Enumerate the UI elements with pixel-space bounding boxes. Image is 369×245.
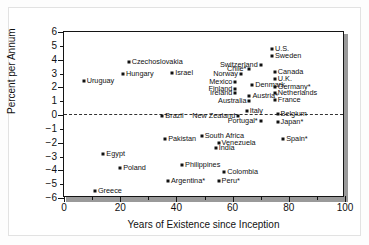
y-tick-label: −2: [46, 138, 57, 148]
data-point-marker: [122, 73, 125, 76]
x-tick-label: 0: [61, 203, 67, 213]
data-point-label: Uruguay: [87, 77, 115, 84]
data-point-marker: [245, 109, 248, 112]
data-point-label: Sweden: [275, 53, 301, 60]
data-point-label: Ireland: [210, 89, 232, 96]
data-point-marker: [248, 100, 251, 103]
x-tick-label: 100: [337, 203, 354, 213]
x-axis-title: Years of Existence since Inception: [63, 219, 344, 230]
data-point-label: Australia: [218, 98, 246, 105]
data-point-marker: [119, 166, 122, 169]
x-tick: [205, 196, 206, 200]
y-tick-label: 1: [51, 96, 57, 106]
data-point-marker: [270, 48, 273, 51]
data-point-label: Greece: [98, 187, 122, 194]
data-point-marker: [276, 113, 279, 116]
data-point-marker: [270, 55, 273, 58]
data-point-label: India: [219, 145, 235, 152]
data-point-label: Hungary: [126, 71, 154, 78]
x-tick-label: 80: [283, 203, 294, 213]
data-point-label: Israel: [175, 69, 193, 76]
y-tick: [60, 157, 64, 158]
y-tick: [60, 129, 64, 130]
data-point-label: Italy: [250, 107, 263, 114]
y-tick-label: 0: [51, 110, 57, 120]
y-tick: [60, 74, 64, 75]
scatter-chart-figure: Percent per Annum 6543210−1−2−3−4−5−6 02…: [0, 0, 369, 245]
y-tick-label: 5: [51, 41, 57, 51]
data-point-marker: [166, 179, 169, 182]
plot-area: 6543210−1−2−3−4−5−6 020406080100 Uruguay…: [63, 31, 344, 197]
x-tick: [92, 196, 93, 200]
data-point-label: Spain*: [286, 136, 308, 143]
data-point-label: New Zealand: [192, 112, 235, 119]
y-tick: [58, 60, 64, 61]
data-point-label: Japan*: [281, 118, 304, 125]
y-tick-label: 3: [51, 69, 57, 79]
data-point-marker: [223, 171, 226, 174]
data-point-marker: [82, 80, 85, 83]
data-point-marker: [127, 60, 130, 63]
data-point-label: Brazil: [165, 112, 183, 119]
data-point-label: Colombia: [227, 169, 258, 176]
y-tick-label: 2: [51, 82, 57, 92]
data-point-label: France: [278, 96, 301, 103]
y-tick-label: −5: [46, 179, 57, 189]
data-point-marker: [248, 95, 251, 98]
y-tick: [58, 87, 64, 88]
data-point-marker: [237, 114, 240, 117]
y-tick: [60, 184, 64, 185]
data-point-label: Denmark: [255, 81, 285, 88]
y-tick-label: 4: [51, 55, 57, 65]
data-point-label: Czechoslovakia: [132, 58, 183, 65]
data-point-label: Switzerland: [220, 62, 258, 69]
data-point-marker: [214, 147, 217, 150]
data-point-marker: [234, 91, 237, 94]
data-point-marker: [259, 120, 262, 123]
y-axis-title: Percent per Annum: [6, 28, 17, 114]
data-point-marker: [276, 120, 279, 123]
y-tick-label: −6: [46, 193, 57, 203]
y-tick-label: −3: [46, 152, 57, 162]
y-tick: [58, 32, 64, 33]
data-point-marker: [251, 83, 254, 86]
data-point-marker: [93, 190, 96, 193]
data-point-marker: [240, 72, 243, 75]
data-point-marker: [161, 114, 164, 117]
x-tick-label: 40: [171, 203, 182, 213]
x-tick-label: 60: [227, 203, 238, 213]
data-point-label: Argentina*: [171, 177, 205, 184]
y-tick-label: −1: [46, 124, 57, 134]
data-point-label: Peru*: [222, 177, 240, 184]
data-point-marker: [164, 138, 167, 141]
y-tick: [58, 143, 64, 144]
page-background: Percent per Annum 6543210−1−2−3−4−5−6 02…: [0, 0, 369, 245]
data-point-marker: [171, 71, 174, 74]
data-point-marker: [282, 138, 285, 141]
x-tick: [317, 196, 318, 200]
data-point-marker: [181, 164, 184, 167]
y-tick: [58, 170, 64, 171]
y-tick-label: 6: [51, 27, 57, 37]
data-point-marker: [234, 81, 237, 84]
data-point-label: Pakistan: [168, 136, 196, 143]
y-tick: [60, 101, 64, 102]
data-point-label: Norway: [213, 70, 238, 77]
data-point-marker: [259, 64, 262, 67]
y-tick-label: −4: [46, 165, 57, 175]
x-tick-label: 20: [115, 203, 126, 213]
data-point-marker: [217, 179, 220, 182]
y-tick: [58, 115, 64, 116]
x-tick: [148, 196, 149, 200]
data-point-label: Philippines: [185, 162, 220, 169]
data-point-marker: [200, 135, 203, 138]
y-tick: [60, 46, 64, 47]
x-tick: [261, 196, 262, 200]
data-point-marker: [273, 71, 276, 74]
data-point-marker: [102, 153, 105, 156]
data-point-label: Poland: [123, 164, 146, 171]
data-point-label: Austria*: [252, 93, 278, 100]
data-point-label: Egypt: [106, 151, 125, 158]
